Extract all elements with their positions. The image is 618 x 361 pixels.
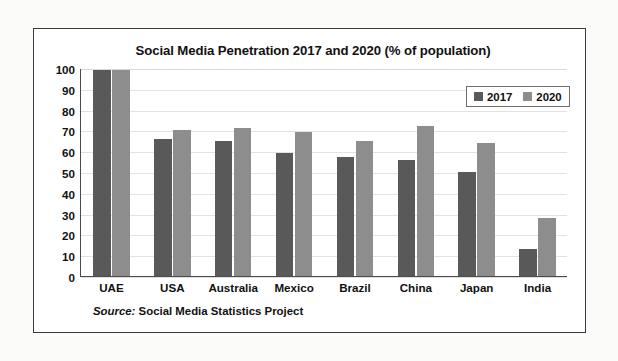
bar-group: UAE	[81, 69, 142, 276]
x-axis-tick-label: India	[507, 281, 568, 294]
y-axis-tick-label: 30	[35, 208, 75, 221]
x-axis-tick-label: USA	[142, 281, 203, 294]
figure-page: Social Media Penetration 2017 and 2020 (…	[0, 0, 618, 361]
y-axis-tick-label: 50	[35, 167, 75, 180]
legend-entry-2017[interactable]: 2017	[474, 91, 512, 103]
gridline	[81, 277, 567, 278]
bar-japan-2017[interactable]	[458, 172, 476, 276]
y-axis-tick-label: 60	[35, 146, 75, 159]
bar-group: Australia	[203, 69, 264, 276]
bar-india-2017[interactable]	[519, 249, 537, 276]
legend-swatch-icon	[523, 92, 532, 101]
source-text: Social Media Statistics Project	[139, 305, 304, 317]
bar-mexico-2020[interactable]	[295, 132, 313, 276]
bar-mexico-2017[interactable]	[276, 153, 294, 276]
bar-brazil-2017[interactable]	[337, 157, 355, 276]
x-axis-tick-label: UAE	[81, 281, 142, 294]
bar-brazil-2020[interactable]	[356, 141, 374, 276]
source-label: Source:	[93, 305, 135, 317]
legend-label: 2017	[487, 91, 512, 103]
chart-title: Social Media Penetration 2017 and 2020 (…	[78, 43, 548, 58]
y-axis-tick-label: 70	[35, 125, 75, 138]
bar-group: Mexico	[264, 69, 325, 276]
bar-australia-2017[interactable]	[215, 141, 233, 276]
bar-india-2020[interactable]	[538, 218, 556, 276]
bar-china-2020[interactable]	[417, 126, 435, 276]
y-axis-tick-label: 0	[35, 271, 75, 284]
x-axis-tick-label: China	[385, 281, 446, 294]
source-note: Source: Social Media Statistics Project	[93, 305, 303, 317]
y-axis-tick-label: 90	[35, 83, 75, 96]
x-axis-tick-label: Australia	[203, 281, 264, 294]
chart-legend: 20172020	[466, 86, 570, 107]
bar-china-2017[interactable]	[398, 160, 416, 276]
y-axis-tick-label: 40	[35, 187, 75, 200]
legend-swatch-icon	[474, 92, 483, 101]
y-axis-tick-label: 100	[35, 63, 75, 76]
bar-group: China	[385, 69, 446, 276]
bar-usa-2017[interactable]	[154, 139, 172, 276]
legend-entry-2020[interactable]: 2020	[523, 91, 561, 103]
bar-group: Brazil	[325, 69, 386, 276]
y-axis-tick-label: 10	[35, 250, 75, 263]
bar-uae-2017[interactable]	[93, 70, 111, 276]
x-axis-tick-label: Mexico	[264, 281, 325, 294]
y-axis-tick-label: 80	[35, 104, 75, 117]
bar-japan-2020[interactable]	[477, 143, 495, 276]
x-axis-tick-label: Japan	[446, 281, 507, 294]
bar-uae-2020[interactable]	[112, 70, 130, 276]
y-axis-tick-label: 20	[35, 229, 75, 242]
bar-usa-2020[interactable]	[173, 130, 191, 276]
x-axis-tick-label: Brazil	[325, 281, 386, 294]
legend-label: 2020	[536, 91, 561, 103]
bar-group: USA	[142, 69, 203, 276]
bar-australia-2020[interactable]	[234, 128, 252, 276]
